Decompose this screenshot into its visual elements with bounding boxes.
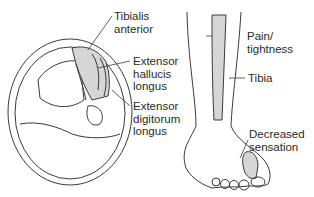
label-extensor-digitorum-longus: Extensor digitorum longus [133, 100, 180, 138]
label-line: Extensor [133, 55, 178, 68]
leg-cross-section [8, 39, 132, 185]
label-pain-tightness: Pain/ tightness [247, 30, 293, 55]
label-decreased-sensation: Decreased sensation [249, 128, 305, 153]
label-line: Pain/ [247, 30, 293, 43]
label-line: digitorum [133, 113, 180, 126]
label-line: longus [133, 80, 178, 93]
label-line: tightness [247, 43, 293, 56]
label-line: anterior [114, 23, 153, 36]
label-line: longus [133, 125, 180, 138]
label-tibialis-anterior: Tibialis anterior [114, 10, 153, 35]
label-tibia: Tibia [248, 72, 273, 85]
label-line: Tibia [248, 72, 273, 85]
label-line: hallucis [133, 68, 178, 81]
label-line: sensation [249, 141, 305, 154]
label-line: Extensor [133, 100, 180, 113]
label-extensor-hallucis-longus: Extensor hallucis longus [133, 55, 178, 93]
label-line: Tibialis [114, 10, 153, 23]
label-line: Decreased [249, 128, 305, 141]
